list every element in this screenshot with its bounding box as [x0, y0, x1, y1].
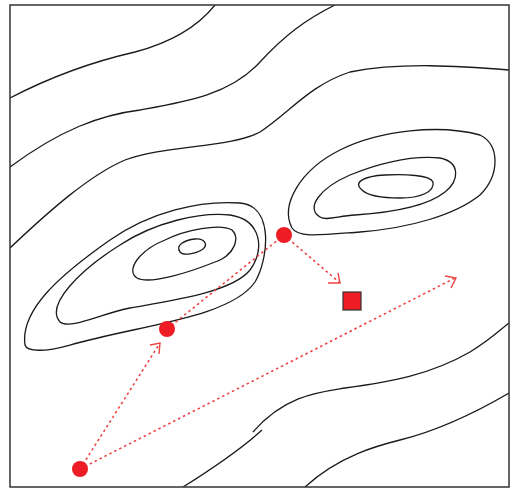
path-start-to-step-1	[80, 343, 160, 469]
contour-diagram	[0, 0, 513, 495]
contour-right-mid	[314, 157, 456, 218]
contour-band-3	[10, 66, 509, 248]
path-step-2-to-target	[284, 235, 340, 283]
contour-right-outer	[289, 130, 495, 235]
contour-band-5	[305, 393, 509, 487]
arrow-heads	[150, 273, 456, 354]
arrowhead-icon	[328, 273, 340, 283]
contour-band-6	[183, 430, 262, 487]
contour-band-4	[253, 323, 509, 432]
contour-right-inner	[359, 175, 434, 198]
step-1-point	[159, 321, 175, 337]
contour-left-outer	[25, 203, 266, 351]
contour-band-2	[10, 5, 335, 167]
step-2-point	[276, 227, 292, 243]
contour-band-1	[10, 5, 215, 98]
points	[72, 227, 292, 477]
optimization-paths	[80, 235, 455, 469]
start-point	[72, 461, 88, 477]
arrowhead-icon	[445, 276, 456, 288]
path-step-1-to-step-2	[167, 235, 284, 329]
target-square	[343, 292, 361, 310]
plot-frame	[10, 5, 509, 487]
contour-left-core	[179, 239, 206, 254]
contour-lines	[10, 5, 509, 487]
contour-left-mid	[56, 214, 258, 324]
